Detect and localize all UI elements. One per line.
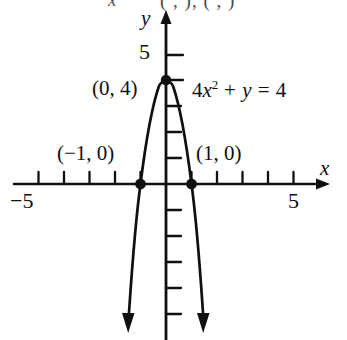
- equation-variable: x: [203, 78, 212, 102]
- parabola-graph-figure: [0, 0, 347, 340]
- parabola-right-arrowhead-icon: [197, 313, 210, 333]
- point-vertex-marker: [161, 75, 171, 85]
- y-axis-label: y: [141, 8, 150, 29]
- parabola-left-arrowhead-icon: [122, 313, 135, 333]
- y-axis-tick-label-5: 5: [139, 41, 150, 63]
- x-axis-arrowhead-icon: [316, 179, 330, 190]
- equation-label: 4x2 + y = 4: [192, 80, 287, 101]
- equation-remainder: + y = 4: [218, 78, 287, 102]
- vertex-point-label: (0, 4): [92, 78, 138, 99]
- left-intercept-label: (−1, 0): [57, 143, 114, 164]
- x-axis-label: x: [320, 158, 329, 179]
- x-axis-tick-label-minus5: −5: [10, 190, 33, 212]
- y-axis-arrowhead-icon: [161, 10, 172, 24]
- caption-fragment-left: x: [108, 0, 116, 9]
- point-right-intercept-marker: [186, 179, 197, 190]
- right-intercept-label: (1, 0): [196, 143, 242, 164]
- x-axis-tick-label-5: 5: [288, 190, 299, 212]
- equation-coefficient: 4: [192, 78, 203, 102]
- point-left-intercept-marker: [135, 179, 146, 190]
- caption-fragment: ( , ), ( , ): [160, 0, 235, 10]
